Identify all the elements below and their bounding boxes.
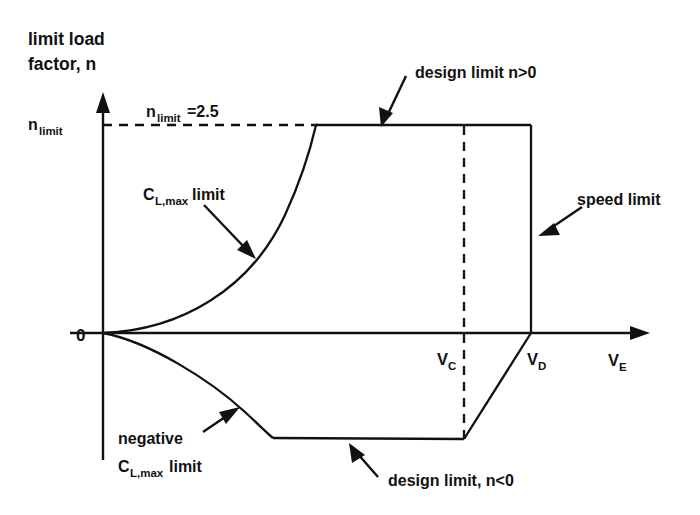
negative-cl-max-limit-leader-arrow (203, 407, 240, 432)
speed-marker-vd-sub: D (538, 360, 546, 372)
n-limit-value-sub: limit (157, 112, 181, 124)
n-limit-value-base: n (146, 103, 156, 120)
vn-diagram-canvas: limit load factor, n n limit 0 n limit =… (0, 0, 700, 515)
y-axis-tick-label-n-limit: n limit (28, 116, 63, 137)
x-axis-arrowhead (630, 326, 650, 340)
y-axis-tick-label-base: n (28, 116, 38, 133)
x-axis-label-sub: E (619, 361, 627, 373)
speed-marker-vc-base: V (437, 350, 448, 368)
speed-limit-leader-arrow (538, 207, 582, 236)
n-limit-value-annotation: n limit =2.5 (146, 103, 219, 124)
negative-cl-max-limit-label-base: C (118, 458, 130, 475)
speed-marker-vc: V C (437, 350, 456, 372)
speed-marker-vc-sub: C (448, 360, 456, 372)
speed-limit-label: speed limit (577, 191, 661, 208)
y-axis-title-line1: limit load (28, 29, 105, 49)
origin-label: 0 (76, 326, 85, 345)
negative-cl-max-limit-curve (103, 333, 273, 438)
x-axis (70, 326, 650, 340)
speed-marker-vd: V D (527, 350, 546, 372)
negative-cl-max-limit-label-tail: limit (169, 458, 203, 475)
negative-cl-max-limit-label: negative C L,max limit (118, 430, 203, 479)
design-limit-negative-line (273, 438, 464, 439)
cl-max-limit-label-base: C (143, 186, 155, 203)
y-axis (96, 92, 110, 460)
y-axis-title-line2: factor, n (28, 54, 96, 74)
cl-max-limit-label: C L,max limit (143, 186, 226, 207)
design-limit-positive-leader-arrow (379, 76, 406, 127)
y-axis-tick-label-sub: limit (39, 125, 63, 137)
y-axis-arrowhead (96, 92, 110, 113)
design-limit-negative-leader-arrow (349, 443, 378, 477)
design-limit-positive-label: design limit n>0 (415, 64, 536, 81)
negative-cl-max-limit-label-sub: L,max (130, 467, 164, 479)
cl-max-limit-label-sub: L,max (155, 195, 189, 207)
x-axis-label-base: V (608, 351, 619, 369)
cl-max-limit-label-tail: limit (192, 186, 226, 203)
design-limit-negative-label: design limit, n<0 (388, 472, 514, 489)
negative-cl-max-limit-label-line1: negative (118, 430, 183, 447)
vd-negative-ramp-line (464, 333, 531, 439)
n-limit-value-equals: =2.5 (187, 103, 219, 120)
cl-max-limit-leader-arrow (204, 205, 256, 259)
speed-marker-vd-base: V (527, 350, 538, 368)
vn-diagram-figure: limit load factor, n n limit 0 n limit =… (0, 0, 700, 515)
x-axis-label-ve: V E (608, 351, 627, 373)
cl-max-limit-curve (103, 125, 316, 333)
